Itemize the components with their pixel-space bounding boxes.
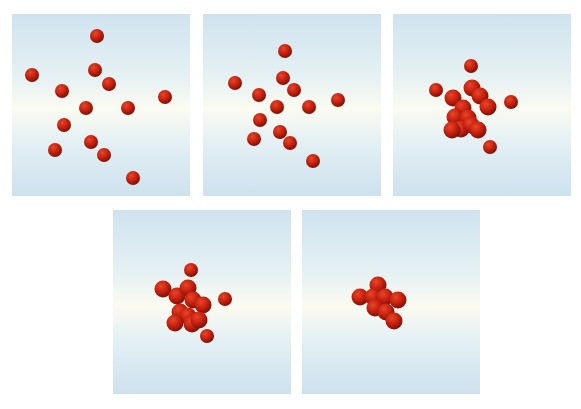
sphere xyxy=(102,77,116,91)
sphere xyxy=(273,125,287,139)
sphere xyxy=(48,143,62,157)
sphere-cluster xyxy=(352,277,407,330)
sphere xyxy=(270,100,284,114)
sphere xyxy=(306,154,320,168)
sphere xyxy=(429,83,443,97)
sphere xyxy=(504,95,518,109)
sphere xyxy=(84,135,98,149)
sphere xyxy=(287,83,301,97)
sphere-cluster xyxy=(444,80,497,139)
sphere xyxy=(276,71,290,85)
sphere xyxy=(483,140,497,154)
sphere xyxy=(57,118,71,132)
sphere-cluster xyxy=(155,280,212,333)
simulation-frame-4 xyxy=(113,210,291,394)
sphere xyxy=(158,90,172,104)
sphere xyxy=(184,263,198,277)
sphere xyxy=(302,100,316,114)
sphere xyxy=(55,84,69,98)
simulation-frame-5 xyxy=(302,210,480,394)
sphere xyxy=(283,136,297,150)
sphere xyxy=(278,44,292,58)
sphere xyxy=(88,63,102,77)
sphere xyxy=(25,68,39,82)
sphere xyxy=(253,113,267,127)
sphere xyxy=(79,101,93,115)
sphere xyxy=(247,132,261,146)
sphere xyxy=(252,88,266,102)
sphere xyxy=(218,292,232,306)
simulation-frame-1 xyxy=(12,14,190,196)
sphere xyxy=(464,59,478,73)
sphere xyxy=(331,93,345,107)
sphere xyxy=(126,171,140,185)
sphere xyxy=(97,148,111,162)
sphere xyxy=(228,76,242,90)
sphere xyxy=(90,29,104,43)
sphere xyxy=(200,329,214,343)
simulation-frame-2 xyxy=(203,14,381,196)
sphere xyxy=(121,101,135,115)
simulation-frame-3 xyxy=(393,14,571,196)
